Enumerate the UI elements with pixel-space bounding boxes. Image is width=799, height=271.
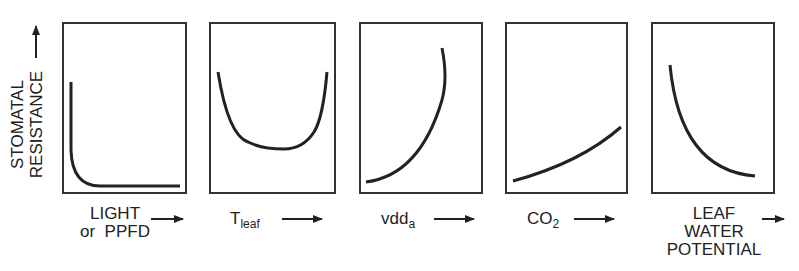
panel-co2-frame [506,23,627,193]
x-label-lwp-line2: WATER [666,223,762,241]
x-label-lwp-line3: POTENTIAL [666,241,762,259]
x-label-light-line1: LIGHT [75,205,155,223]
panel-tleaf-frame [210,23,335,193]
curve-light [71,82,180,186]
x-label-tleaf-sub: leaf [240,217,259,231]
x-label-co2-main: CO [527,209,553,228]
curve-tleaf [218,72,327,149]
panel-vdd-frame [360,23,482,193]
x-label-tleaf-main: T [230,209,240,228]
x-label-co2: CO2 [527,210,559,229]
panel-light-frame [63,23,186,193]
x-label-vdd-sub: a [408,217,415,231]
curve-co2 [513,127,621,181]
x-label-vdd: vdda [381,210,415,229]
x-label-vdd-main: vdd [381,209,408,228]
curve-lwp [670,65,755,176]
x-label-co2-sub: 2 [553,217,560,231]
y-axis-label: STOMATAL RESISTANCE [8,62,46,187]
x-label-light: LIGHT or PPFD [75,205,155,241]
y-axis-label-line1: STOMATAL [8,62,27,187]
curve-vdd [366,48,445,182]
y-axis-label-line2: RESISTANCE [27,62,46,187]
x-label-lwp-line1: LEAF [666,205,762,223]
panel-lwp-frame [652,23,774,193]
x-label-tleaf: Tleaf [230,210,260,229]
x-label-light-line2: or PPFD [75,223,155,241]
x-label-lwp: LEAF WATER POTENTIAL [666,205,762,259]
